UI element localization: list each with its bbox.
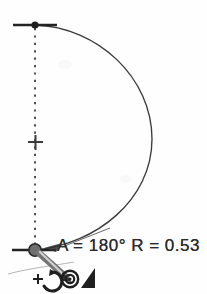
dimension-label[interactable]: A = 180° R = 0.53 (57, 236, 200, 256)
rotate-arc-cursor[interactable] (33, 269, 62, 291)
arc-path[interactable] (35, 25, 152, 250)
top-endpoint-node[interactable] (31, 21, 38, 28)
center-crosshair (28, 135, 43, 150)
cad-drawing-canvas[interactable]: A = 180° R = 0.53 (0, 0, 207, 294)
delta-angle-icon[interactable] (81, 268, 95, 288)
